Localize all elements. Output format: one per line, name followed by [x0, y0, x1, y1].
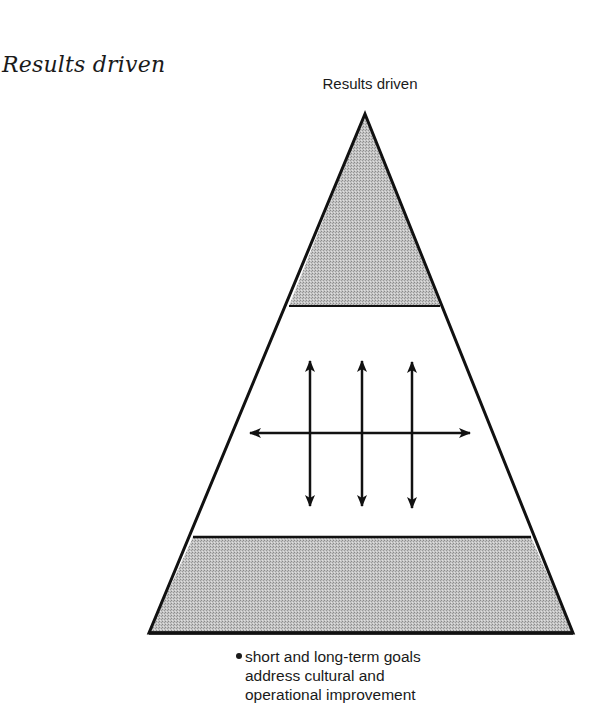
cross-arrows-group	[250, 361, 470, 508]
bullet-icon	[236, 653, 242, 659]
caption-line-3: operational improvement	[236, 685, 496, 704]
pyramid-diagram	[0, 0, 592, 713]
caption-text-1: short and long-term goals	[245, 648, 421, 665]
caption-line-1: short and long-term goals	[236, 647, 496, 666]
diagram-caption: short and long-term goals address cultur…	[236, 647, 496, 704]
caption-line-2: address cultural and	[236, 666, 496, 685]
pyramid-bottom-band	[149, 537, 573, 633]
pyramid-top-band	[289, 114, 440, 306]
